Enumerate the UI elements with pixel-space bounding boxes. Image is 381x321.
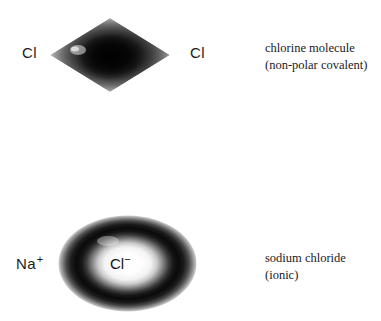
caption-chlorine-molecule: chlorine molecule (non-polar covalent)	[265, 40, 367, 73]
row-hydrogen-fluoride: δ+ H	[0, 222, 381, 321]
diamond-density-svg	[48, 16, 172, 94]
row-sodium-chloride: Na+	[0, 105, 381, 213]
atom-label-chlorine-right: Cl	[190, 44, 205, 61]
caption-line-primary: chlorine molecule	[265, 40, 367, 57]
atom-label-chloride-anion: Cl−	[110, 255, 131, 272]
atom-label-chlorine-left: Cl	[22, 44, 37, 61]
atom-symbol: Cl	[190, 44, 205, 61]
atom-symbol: Cl	[110, 255, 124, 272]
electron-density-diamond	[48, 16, 172, 94]
caption-line-secondary: (non-polar covalent)	[265, 57, 367, 74]
atom-symbol: Cl	[22, 44, 37, 61]
electron-density-figure: Cl	[0, 0, 381, 321]
row-chlorine-molecule: Cl	[0, 0, 381, 108]
charge-superscript-negative: −	[124, 253, 130, 265]
